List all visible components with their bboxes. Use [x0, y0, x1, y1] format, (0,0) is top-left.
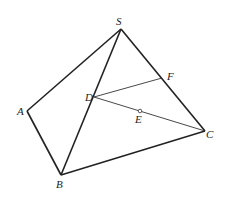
label-D: D: [84, 91, 93, 103]
edge-SA: [27, 29, 121, 111]
thick-edges: [27, 29, 205, 175]
edge-BC: [61, 131, 205, 175]
edge-SC: [121, 29, 205, 131]
edge-DC: [94, 97, 205, 131]
label-F: F: [166, 70, 174, 82]
edge-DF: [94, 78, 162, 97]
label-A: A: [16, 105, 24, 117]
label-E: E: [134, 113, 142, 125]
label-B: B: [56, 178, 63, 190]
label-S: S: [116, 15, 122, 27]
edge-AB: [27, 111, 61, 175]
thin-edges: [94, 78, 205, 131]
label-C: C: [206, 128, 214, 140]
pyramid-diagram: S A B C D E F: [0, 0, 226, 202]
